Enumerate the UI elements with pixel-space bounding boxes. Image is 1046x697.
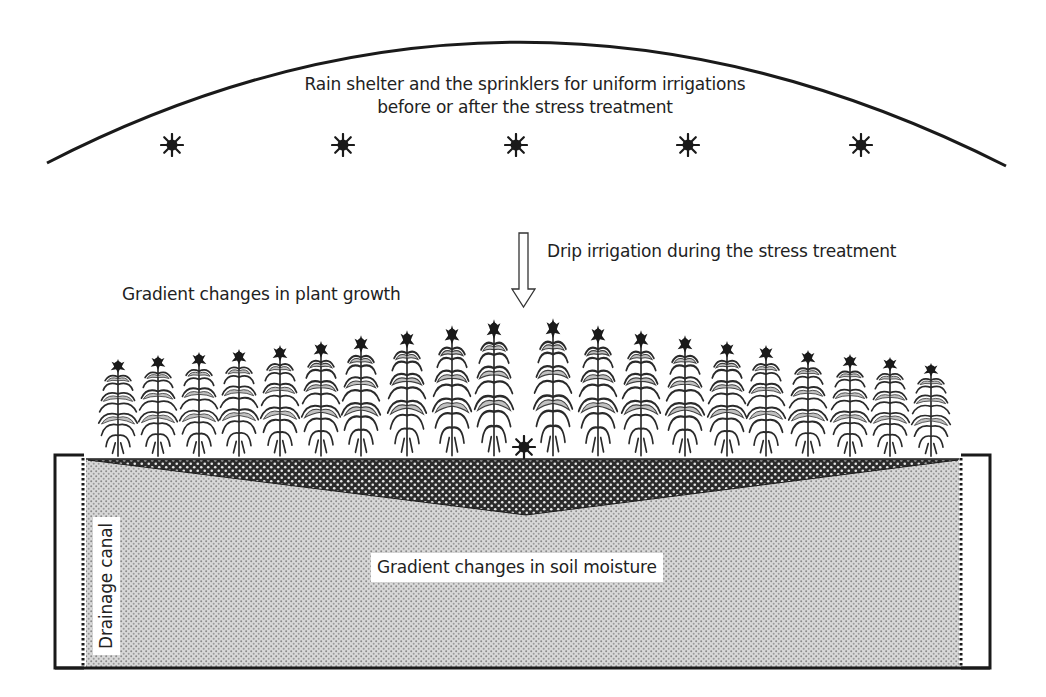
corn-plant-icon bbox=[747, 345, 786, 456]
corn-plant-icon bbox=[180, 352, 219, 456]
sprinkler-icon bbox=[513, 436, 535, 458]
corn-plant-icon bbox=[139, 355, 178, 456]
corn-plant-icon bbox=[666, 335, 705, 455]
sprinkler-icon bbox=[332, 134, 354, 156]
drainage-canal-label: Drainage canal bbox=[93, 517, 120, 655]
corn-plant-icon bbox=[871, 357, 910, 456]
corn-plant-icon bbox=[302, 341, 341, 456]
corn-plant-icon bbox=[342, 335, 381, 455]
soil-moisture-label: Gradient changes in soil moisture bbox=[371, 553, 663, 582]
shelter-sprinklers bbox=[161, 134, 872, 156]
corn-plant-icon bbox=[789, 350, 828, 456]
sprinkler-icon bbox=[677, 134, 699, 156]
corn-plant-icon bbox=[622, 330, 661, 455]
shelter-label-line2: before or after the stress treatment bbox=[377, 97, 673, 118]
sprinkler-icon bbox=[505, 134, 527, 156]
sprinkler-icon bbox=[161, 134, 183, 156]
hollow-down-arrow-icon bbox=[512, 233, 535, 307]
corn-plant-icon bbox=[99, 359, 138, 456]
corn-plant-icon bbox=[475, 319, 514, 455]
corn-plant-icon bbox=[388, 330, 427, 455]
corn-plant-icon bbox=[708, 341, 747, 456]
corn-plant-icon bbox=[261, 345, 300, 456]
shelter-label-line1: Rain shelter and the sprinklers for unif… bbox=[304, 74, 745, 95]
drainage-canal-right bbox=[961, 455, 990, 668]
sprinkler-icon bbox=[850, 134, 872, 156]
corn-plant-icon bbox=[579, 325, 618, 455]
drainage-canal-left bbox=[55, 455, 84, 668]
drip-irrigation-label: Drip irrigation during the stress treatm… bbox=[547, 241, 896, 262]
irrigation-diagram: Rain shelter and the sprinklers for unif… bbox=[0, 0, 1046, 697]
corn-plant-icon bbox=[220, 349, 259, 456]
corn-plant-icon bbox=[912, 363, 951, 456]
drip-sprinkler-icon bbox=[513, 436, 535, 458]
corn-plant-icon bbox=[831, 354, 870, 456]
corn-plant-icon bbox=[534, 318, 573, 455]
corn-plant-icon bbox=[433, 325, 472, 455]
plant-growth-label: Gradient changes in plant growth bbox=[122, 284, 401, 305]
